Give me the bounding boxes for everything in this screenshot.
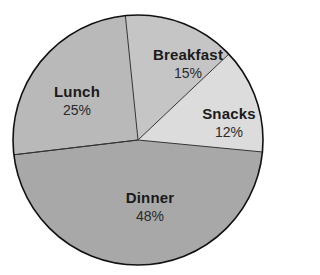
slice-name-breakfast: Breakfast [153, 46, 223, 64]
slice-pct-breakfast: 15% [153, 64, 223, 82]
slice-name-lunch: Lunch [54, 83, 100, 101]
label-breakfast: Breakfast 15% [153, 46, 223, 82]
slice-name-snacks: Snacks [202, 105, 256, 123]
label-dinner: Dinner 48% [126, 189, 175, 225]
slice-pct-lunch: 25% [54, 101, 100, 119]
slice-pct-dinner: 48% [126, 207, 175, 225]
label-lunch: Lunch 25% [54, 83, 100, 119]
label-snacks: Snacks 12% [202, 105, 256, 141]
slice-name-dinner: Dinner [126, 189, 175, 207]
slice-pct-snacks: 12% [202, 123, 256, 141]
